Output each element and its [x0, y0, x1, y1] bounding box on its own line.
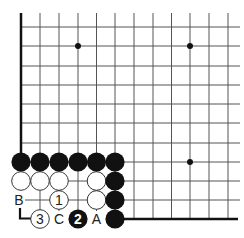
- black-stone: [105, 190, 124, 209]
- star-point: [187, 159, 193, 165]
- move-number: 2: [74, 211, 82, 227]
- point-label-b: B: [14, 192, 23, 208]
- black-stone: [49, 152, 68, 171]
- point-label-c: C: [54, 211, 64, 227]
- black-stone: [11, 152, 30, 171]
- white-stone: [50, 172, 69, 191]
- point-label-a: A: [92, 211, 102, 227]
- white-stone: [87, 191, 106, 210]
- star-point: [75, 43, 81, 49]
- black-stone: [87, 152, 106, 171]
- star-point: [187, 43, 193, 49]
- corner-marker: [20, 208, 32, 219]
- black-stone: [68, 152, 87, 171]
- black-stone: [105, 152, 124, 171]
- black-stone: [105, 209, 124, 228]
- move-number: 3: [36, 211, 44, 227]
- white-stone: [31, 172, 50, 191]
- black-stone: [105, 171, 124, 190]
- white-stone: [12, 172, 31, 191]
- stones: 132: [11, 152, 124, 228]
- go-board: 132 ABC: [0, 0, 244, 238]
- black-stone: [30, 152, 49, 171]
- white-stone: [87, 172, 106, 191]
- move-number: 1: [55, 192, 63, 208]
